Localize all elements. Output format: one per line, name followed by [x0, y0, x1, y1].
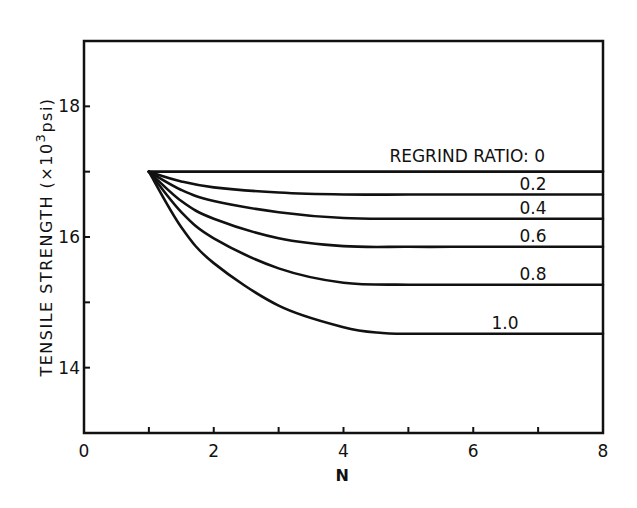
x-tick-label: 6: [468, 441, 479, 461]
x-tick-label: 2: [208, 441, 219, 461]
y-tick-label: 18: [58, 96, 80, 116]
x-tick-label: 8: [598, 441, 609, 461]
series-labels: REGRIND RATIO: 00.20.40.60.81.0: [389, 146, 546, 333]
series-label-0-8: 0.8: [519, 264, 546, 284]
series-label-0: REGRIND RATIO: 0: [389, 146, 545, 166]
y-axis-label: TENSILE STRENGTH (×103psi): [33, 97, 56, 377]
y-tick-label: 16: [58, 227, 80, 247]
y-tick-label: 14: [58, 358, 80, 378]
x-axis-tick-labels: 02468: [79, 441, 609, 461]
series-label-0-6: 0.6: [519, 226, 546, 246]
series-lines: [149, 172, 603, 334]
tensile-strength-chart: 02468 141618 REGRIND RATIO: 00.20.40.60.…: [0, 0, 637, 508]
series-label-0-4: 0.4: [519, 198, 546, 218]
x-tick-label: 0: [79, 441, 90, 461]
y-axis-label-unit: psi): [37, 97, 56, 132]
x-tick-label: 4: [338, 441, 349, 461]
series-line-1-0: [149, 172, 603, 334]
y-axis-tick-labels: 141618: [58, 96, 80, 377]
series-label-0-2: 0.2: [519, 174, 546, 194]
series-label-1-0: 1.0: [491, 313, 518, 333]
y-axis-label-sup: 3: [33, 133, 48, 143]
y-axis-label-main: TENSILE STRENGTH (×10: [37, 142, 56, 377]
x-axis-label: N: [336, 466, 351, 485]
